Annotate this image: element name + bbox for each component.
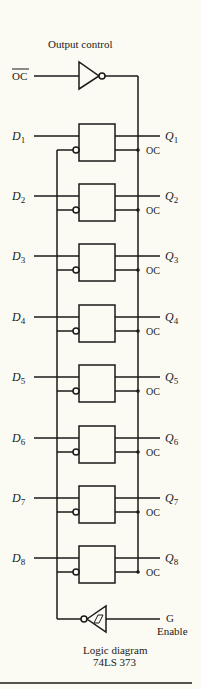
- d-latch-box: [79, 184, 115, 221]
- d-latch-box: [79, 546, 115, 583]
- d-latch-box: [79, 426, 115, 463]
- d-latch-box: [79, 124, 115, 161]
- d-input-label: D2: [11, 189, 25, 205]
- d-input-label: D7: [11, 491, 26, 507]
- oc-inverter-icon: [79, 62, 99, 89]
- oc-label: OC: [146, 447, 160, 458]
- enable-pin-label: G: [166, 612, 174, 624]
- q-output-label: Q6: [165, 431, 179, 447]
- latch-row: D2Q2OC: [11, 184, 178, 221]
- oc-label: OC: [146, 326, 160, 337]
- d-latch-box: [79, 305, 115, 342]
- d-input-label: D1: [11, 129, 25, 145]
- oc-label: OC: [146, 265, 160, 276]
- title-output-control: Output control: [48, 38, 112, 50]
- q-output-label: Q4: [165, 310, 179, 326]
- q-output-label: Q3: [165, 249, 179, 265]
- latch-row: D8Q8OC: [11, 546, 179, 583]
- q-output-label: Q2: [165, 189, 178, 205]
- d-latch-box: [79, 486, 115, 523]
- d-latch-box: [79, 244, 115, 281]
- enable-label: Enable: [157, 625, 188, 637]
- latch-row: D6Q6OC: [11, 426, 179, 463]
- q-output-label: Q5: [165, 370, 179, 386]
- junction-dot: [136, 208, 140, 212]
- hysteresis-icon: [94, 615, 103, 623]
- latch-row: D4Q4OC: [11, 305, 179, 342]
- latch-row: D5Q5OC: [11, 365, 179, 402]
- caption-line1: Logic diagram: [83, 644, 148, 656]
- junction-dot: [136, 450, 140, 454]
- d-input-label: D6: [11, 431, 26, 447]
- oc-label: OC: [146, 507, 160, 518]
- d-input-label: D8: [11, 551, 26, 567]
- oc-label: OC: [146, 205, 160, 216]
- junction-dot: [136, 389, 140, 393]
- junction-dot: [136, 268, 140, 272]
- q-output-label: Q7: [165, 491, 179, 507]
- d-input-label: D4: [11, 310, 26, 326]
- caption-line2: 74LS 373: [93, 656, 137, 668]
- d-input-label: D5: [11, 370, 26, 386]
- oc-input-label: OC: [12, 70, 27, 82]
- junction-dot: [136, 148, 140, 152]
- logic-diagram: Output control OC D1Q1OCD2Q2OCD3Q3OCD4Q4…: [0, 0, 201, 689]
- oc-label: OC: [146, 386, 160, 397]
- junction-dot: [136, 510, 140, 514]
- q-output-label: Q8: [165, 551, 179, 567]
- d-input-label: D3: [11, 249, 26, 265]
- junction-dot: [136, 570, 140, 574]
- d-latch-box: [79, 365, 115, 402]
- oc-label: OC: [146, 567, 160, 578]
- latch-row: D3Q3OC: [11, 244, 179, 281]
- latch-row: D7Q7OC: [11, 486, 179, 523]
- junction-dot: [136, 329, 140, 333]
- oc-label: OC: [146, 145, 160, 156]
- latch-row: D1Q1OC: [11, 124, 178, 161]
- q-output-label: Q1: [165, 129, 178, 145]
